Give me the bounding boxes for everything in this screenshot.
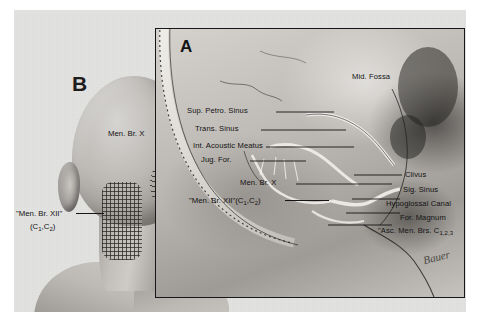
label-men-br-xii-left: "Men. Br. XII" — [16, 209, 62, 218]
label-transverse-sinus: Trans. Sinus — [195, 124, 239, 133]
label-internal-acoustic-meatus: Int. Acoustic Meatus — [193, 141, 263, 150]
label-jugular-foramen: Jug. For. — [201, 155, 231, 164]
label-men-br-x-panel-a: Men. Br. X — [240, 178, 276, 187]
label-clivus: Clivus — [405, 170, 426, 179]
asc-men-brs-roots: 1,2,3 — [439, 230, 453, 236]
label-men-br-xii-center: "Men. Br. XII"(C1,C2) — [189, 196, 261, 206]
center-roots-close: ) — [258, 196, 261, 205]
label-men-br-xii-left-roots: (C1,C2) — [30, 222, 55, 232]
roots-open: (C — [30, 222, 38, 231]
label-foramen-magnum: For. Magnum — [400, 213, 446, 222]
label-men-br-xii-left-text: "Men. Br. XII" — [16, 209, 62, 218]
leader-line-men-br-xii-left — [76, 213, 104, 214]
leader-line-men-br-xii-center — [285, 200, 329, 201]
label-sup-petrosal-sinus: Sup. Petro. Sinus — [187, 106, 248, 115]
label-mid-fossa: Mid. Fossa — [352, 72, 390, 81]
figure-root: B Men. Br. X "Men. Br. XII" (C1,C2) A — [0, 0, 477, 335]
label-sigmoid-sinus: Sig. Sinus — [403, 185, 438, 194]
roots-close: ) — [53, 222, 56, 231]
panel-a: A — [155, 28, 465, 298]
asc-men-brs-text: "Asc. Men. Brs. C — [378, 226, 439, 235]
center-roots-open: "Men. Br. XII"(C — [189, 196, 244, 205]
label-asc-meningeal-branches: "Asc. Men. Brs. C1,2,3 — [378, 226, 453, 236]
center-roots-mid: ,C — [247, 196, 255, 205]
label-hypoglossal-canal: Hypoglossal Canal — [386, 199, 451, 208]
